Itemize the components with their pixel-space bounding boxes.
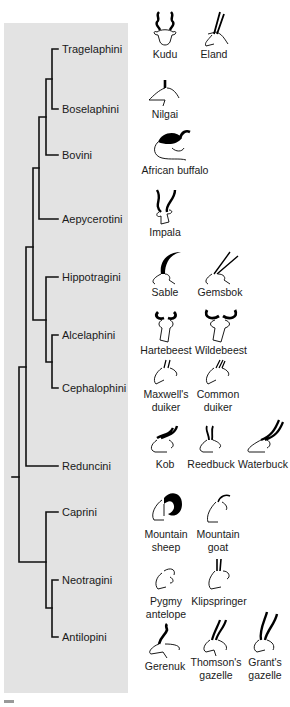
animal-label: Pygmy [140,595,192,608]
tribe-label-caprini: Caprini [62,506,97,518]
thomsons-gazelle-head-icon [196,616,236,656]
animal-klipspringer: Klipspringer [188,555,250,608]
waterbuck-head-icon [241,418,285,458]
animal-reedbuck: Reedbuck [186,424,236,471]
animal-label: Reedbuck [186,458,236,471]
animal-label: goat [192,541,244,554]
animal-label: Waterbuck [236,458,290,471]
branch-reduncini [26,247,58,466]
animal-wildebeest: Wildebeest [192,306,250,357]
animal-label: Common [192,388,244,401]
eland-head-icon [194,8,234,48]
reedbuck-head-icon [191,424,231,458]
animal-label: Hartebeest [138,344,194,357]
kudu-head-icon [145,8,185,48]
sable-head-icon [145,246,185,286]
tribe-label-antilopini: Antilopini [62,631,107,643]
tribe-label-tragelaphini: Tragelaphini [62,43,122,55]
tribe-label-alcelaphini: Alcelaphini [62,329,115,341]
animal-thomsons-gazelle: Thomson's gazelle [190,616,242,681]
common-duiker-head-icon [198,358,238,388]
kob-head-icon [145,424,185,458]
animal-label: gazelle [190,669,242,682]
animal-label: Thomson's [190,656,242,669]
animal-common-duiker: Common duiker [192,358,244,413]
animal-pygmy-antelope: Pygmy antelope [140,565,192,620]
animal-kob: Kob [143,424,187,471]
maxwells-duiker-head-icon [146,358,186,388]
animal-label: gazelle [240,669,290,682]
animal-label: Maxwell's [140,388,192,401]
gerenuk-head-icon [143,622,187,660]
animal-impala: Impala [143,186,187,239]
figure-caption-marker [4,700,14,703]
animal-label: Nilgai [143,108,187,121]
animal-label: Sable [143,286,187,299]
animal-label: duiker [192,401,244,414]
animal-maxwells-duiker: Maxwell's duiker [140,358,192,413]
animal-label: duiker [140,401,192,414]
branch-aepycerotini [39,117,58,219]
animal-african-buffalo: African buffalo [140,126,210,177]
pygmy-antelope-head-icon [146,565,186,595]
animal-label: Impala [143,226,187,239]
animal-sable: Sable [143,246,187,299]
animal-eland: Eland [192,8,236,61]
klipspringer-head-icon [199,555,239,595]
animal-label: sheep [140,541,192,554]
mountain-sheep-head-icon [146,488,186,528]
animal-label: Mountain [140,528,192,541]
animal-grants-gazelle: Grant's gazelle [240,610,290,681]
gemsbok-head-icon [198,246,242,286]
branch-tragelaphini-boselaphini [52,49,58,109]
branch-neotragini-antilopini [52,580,58,637]
animal-label: Grant's [240,656,290,669]
animal-hartebeest: Hartebeest [138,306,194,357]
animal-label: Mountain [192,528,244,541]
tribe-label-cephalophini: Cephalophini [62,382,126,394]
animal-nilgai: Nilgai [143,76,187,121]
animal-label: antelope [140,608,192,621]
nilgai-head-icon [145,76,185,108]
hartebeest-head-icon [146,306,186,344]
animal-waterbuck: Waterbuck [236,418,290,471]
animal-label: African buffalo [140,164,210,177]
animal-label: Kudu [143,48,187,61]
animal-label: Gerenuk [140,660,190,673]
mountain-goat-head-icon [198,488,238,528]
tribe-label-bovini: Bovini [62,149,92,161]
tribe-label-boselaphini: Boselaphini [62,103,119,115]
tribe-label-neotragini: Neotragini [62,574,112,586]
animal-label: Wildebeest [192,344,250,357]
animal-gemsbok: Gemsbok [194,246,246,299]
animal-kudu: Kudu [143,8,187,61]
tribe-label-aepycerotini: Aepycerotini [62,213,123,225]
animal-label: Kob [143,458,187,471]
animal-label: Klipspringer [188,595,250,608]
animal-gerenuk: Gerenuk [140,622,190,673]
tribe-label-reduncini: Reduncini [62,460,111,472]
tribe-label-hippotragini: Hippotragini [62,271,121,283]
wildebeest-head-icon [199,306,243,344]
grants-gazelle-head-icon [245,610,285,656]
animal-label: Gemsbok [194,286,246,299]
african-buffalo-head-icon [150,126,200,164]
animal-mountain-sheep: Mountain sheep [140,488,192,553]
animal-label: Eland [192,48,236,61]
animal-mountain-goat: Mountain goat [192,488,244,553]
branch-alcelaphini-cephalophini [52,335,58,388]
branch-root [19,367,46,562]
impala-head-icon [145,186,185,226]
